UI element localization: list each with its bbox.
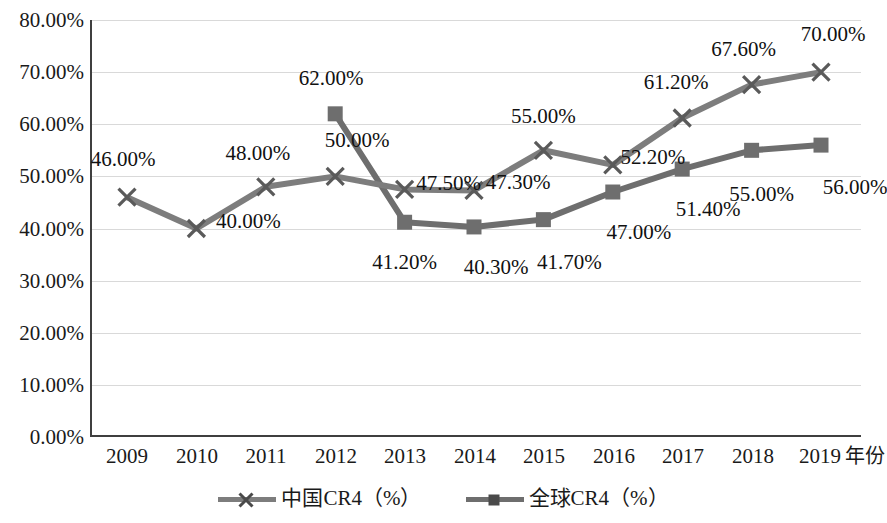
gridline: [92, 229, 861, 230]
china-data-label: 48.00%: [225, 142, 290, 163]
china-data-label: 67.60%: [711, 38, 776, 59]
x-axis-title: 年份: [845, 446, 885, 466]
global-data-label: 55.00%: [729, 184, 794, 205]
x-axis-tick: 2017: [662, 446, 704, 467]
gridline: [92, 385, 861, 386]
x-axis-tick: 2018: [732, 446, 774, 467]
legend-item-global[interactable]: 全球CR4（%）: [466, 488, 669, 509]
global-data-label: 47.00%: [606, 222, 671, 243]
china-data-label: 70.00%: [801, 24, 866, 45]
gridline: [92, 20, 861, 21]
y-axis-tick: 30.00%: [0, 271, 84, 292]
global-data-label: 62.00%: [299, 67, 364, 88]
chart-legend: 中国CR4（%） 全球CR4（%）: [0, 488, 887, 509]
china-data-label: 47.30%: [486, 172, 551, 193]
global-data-label: 40.30%: [464, 256, 529, 277]
gridline: [92, 124, 861, 125]
china-data-label: 55.00%: [511, 106, 576, 127]
gridline: [92, 281, 861, 282]
gridline: [92, 333, 861, 334]
y-axis-tick: 50.00%: [0, 166, 84, 187]
y-axis-tick: 20.00%: [0, 323, 84, 344]
legend-label-global: 全球CR4（%）: [529, 488, 669, 509]
legend-label-china: 中国CR4（%）: [281, 488, 421, 509]
y-axis-tick: 60.00%: [0, 114, 84, 135]
x-axis-tick: 2009: [106, 446, 148, 467]
x-marker-icon: [218, 489, 276, 509]
y-axis-tick: 0.00%: [0, 427, 84, 448]
china-data-label: 61.20%: [644, 71, 709, 92]
x-axis-tick: 2010: [176, 446, 218, 467]
line-chart: 80.00% 70.00% 60.00% 50.00% 40.00% 30.00…: [0, 0, 887, 523]
china-data-label: 46.00%: [91, 149, 156, 170]
y-axis-tick: 70.00%: [0, 62, 84, 83]
china-data-label: 40.00%: [216, 210, 281, 231]
china-data-label: 50.00%: [325, 130, 390, 151]
global-data-label: 41.20%: [372, 252, 437, 273]
x-axis-tick: 2011: [245, 446, 286, 467]
square-marker-icon: [466, 489, 524, 509]
x-axis-tick: 2014: [454, 446, 496, 467]
x-axis-tick: 2013: [384, 446, 426, 467]
gridline: [92, 72, 861, 73]
y-axis-tick: 80.00%: [0, 10, 84, 31]
global-data-label: 41.70%: [537, 251, 602, 272]
global-data-label: 56.00%: [823, 177, 887, 198]
x-axis-tick: 2016: [593, 446, 635, 467]
china-data-label: 52.20%: [620, 146, 685, 167]
x-axis-tick: 2019: [799, 446, 841, 467]
china-data-label: 47.50%: [416, 173, 481, 194]
x-axis-tick: 2015: [523, 446, 565, 467]
legend-item-china[interactable]: 中国CR4（%）: [218, 488, 421, 509]
plot-area: [90, 20, 861, 437]
y-axis-tick: 10.00%: [0, 375, 84, 396]
y-axis-tick: 40.00%: [0, 219, 84, 240]
x-axis-tick: 2012: [315, 446, 357, 467]
